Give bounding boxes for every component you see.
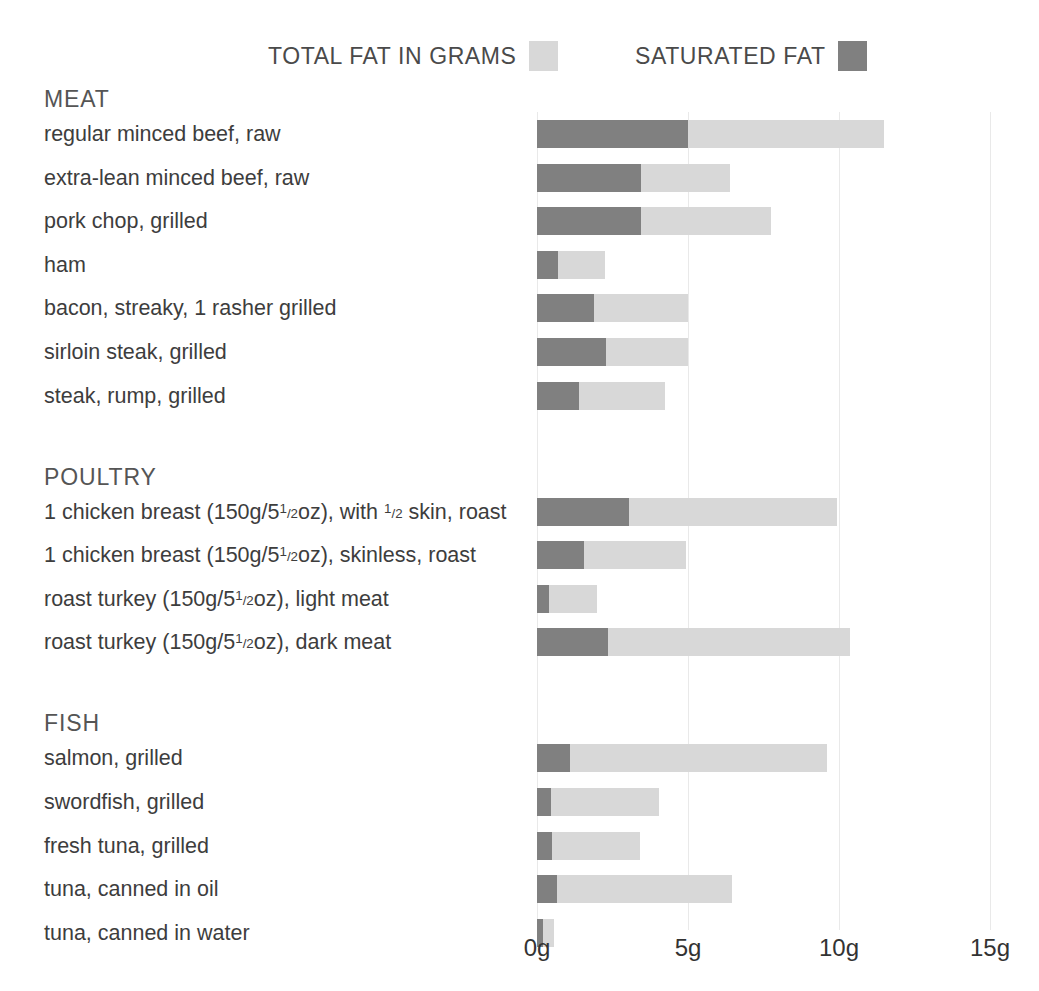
row-label: tuna, canned in oil [44, 875, 219, 903]
bar-segment-saturated-fat [537, 875, 557, 903]
bar-segment-saturated-fat [537, 251, 558, 279]
row-label: roast turkey (150g/51/2oz), dark meat [44, 628, 391, 656]
bar-segment-total-fat [608, 628, 850, 656]
bar-segment-total-fat [551, 788, 660, 816]
row-label: roast turkey (150g/51/2oz), light meat [44, 585, 389, 613]
stacked-bar [537, 788, 659, 816]
chart-row: salmon, grilled [0, 744, 1039, 772]
x-axis-tick-0g: 0g [524, 934, 551, 962]
chart-row: sirloin steak, grilled [0, 338, 1039, 366]
section-heading-meat: MEAT [44, 86, 110, 113]
x-axis: 0g5g10g15g [0, 934, 1039, 974]
bar-segment-saturated-fat [537, 338, 606, 366]
stacked-bar [537, 207, 771, 235]
x-axis-tick-5g: 5g [675, 934, 702, 962]
bar-segment-saturated-fat [537, 498, 629, 526]
chart-row: 1 chicken breast (150g/51/2oz), with 1/2… [0, 498, 1039, 526]
chart-row: tuna, canned in oil [0, 875, 1039, 903]
chart-row: pork chop, grilled [0, 207, 1039, 235]
bar-segment-saturated-fat [537, 788, 551, 816]
chart-rows: MEATregular minced beef, rawextra-lean m… [0, 0, 1039, 935]
row-label: regular minced beef, raw [44, 120, 281, 148]
row-label: fresh tuna, grilled [44, 832, 209, 860]
bar-segment-total-fat [579, 382, 665, 410]
stacked-bar [537, 164, 730, 192]
stacked-bar [537, 744, 827, 772]
row-label: swordfish, grilled [44, 788, 204, 816]
bar-segment-total-fat [629, 498, 837, 526]
row-label: extra-lean minced beef, raw [44, 164, 309, 192]
chart-row: fresh tuna, grilled [0, 832, 1039, 860]
bar-segment-saturated-fat [537, 382, 579, 410]
bar-segment-saturated-fat [537, 164, 641, 192]
bar-segment-total-fat [557, 875, 732, 903]
stacked-bar [537, 251, 605, 279]
bar-segment-saturated-fat [537, 832, 552, 860]
stacked-bar [537, 498, 837, 526]
bar-segment-saturated-fat [537, 207, 641, 235]
chart-row: regular minced beef, raw [0, 120, 1039, 148]
chart-row: 1 chicken breast (150g/51/2oz), skinless… [0, 541, 1039, 569]
chart-row: steak, rump, grilled [0, 382, 1039, 410]
x-axis-tick-10g: 10g [819, 934, 859, 962]
stacked-bar [537, 832, 640, 860]
bar-segment-total-fat [558, 251, 605, 279]
chart-row: roast turkey (150g/51/2oz), dark meat [0, 628, 1039, 656]
stacked-bar [537, 585, 597, 613]
bar-segment-saturated-fat [537, 628, 608, 656]
stacked-bar [537, 875, 732, 903]
row-label: salmon, grilled [44, 744, 183, 772]
bar-segment-total-fat [552, 832, 640, 860]
section-heading-fish: FISH [44, 710, 100, 737]
row-label: steak, rump, grilled [44, 382, 226, 410]
bar-segment-total-fat [641, 207, 771, 235]
bar-segment-saturated-fat [537, 120, 688, 148]
bar-segment-total-fat [549, 585, 597, 613]
stacked-bar [537, 382, 665, 410]
bar-segment-total-fat [594, 294, 688, 322]
stacked-bar [537, 294, 688, 322]
bar-segment-saturated-fat [537, 744, 570, 772]
chart-row: roast turkey (150g/51/2oz), light meat [0, 585, 1039, 613]
bar-segment-saturated-fat [537, 541, 584, 569]
bar-segment-total-fat [688, 120, 884, 148]
row-label: pork chop, grilled [44, 207, 208, 235]
row-label: sirloin steak, grilled [44, 338, 227, 366]
stacked-bar [537, 541, 686, 569]
bar-segment-saturated-fat [537, 585, 549, 613]
row-label: bacon, streaky, 1 rasher grilled [44, 294, 336, 322]
stacked-bar [537, 628, 850, 656]
bar-segment-total-fat [606, 338, 688, 366]
chart-row: bacon, streaky, 1 rasher grilled [0, 294, 1039, 322]
row-label: 1 chicken breast (150g/51/2oz), with 1/2… [44, 498, 507, 526]
bar-segment-total-fat [584, 541, 687, 569]
row-label: ham [44, 251, 86, 279]
stacked-bar [537, 338, 688, 366]
bar-segment-saturated-fat [537, 294, 594, 322]
section-heading-poultry: POULTRY [44, 464, 157, 491]
stacked-bar [537, 120, 884, 148]
chart-row: extra-lean minced beef, raw [0, 164, 1039, 192]
chart-row: swordfish, grilled [0, 788, 1039, 816]
row-label: 1 chicken breast (150g/51/2oz), skinless… [44, 541, 476, 569]
bar-segment-total-fat [570, 744, 827, 772]
x-axis-tick-15g: 15g [970, 934, 1010, 962]
bar-segment-total-fat [641, 164, 730, 192]
chart-row: ham [0, 251, 1039, 279]
